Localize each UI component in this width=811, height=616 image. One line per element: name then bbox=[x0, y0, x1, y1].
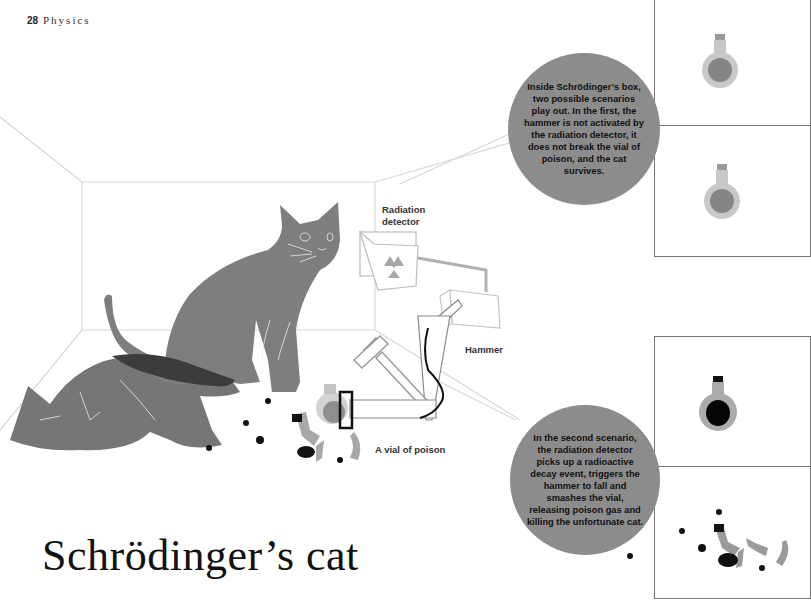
scenario-1-text: Inside Schrödinger’s box, two possible s… bbox=[524, 81, 644, 177]
connector-line-2 bbox=[440, 382, 516, 420]
radiation-detector-label: Radiation detector bbox=[382, 204, 425, 228]
vial-label: A vial of poison bbox=[375, 444, 445, 456]
scenario-1-bubble: Inside Schrödinger’s box, two possible s… bbox=[508, 53, 660, 205]
panel-scenario1-after bbox=[654, 125, 811, 257]
radiation-detector-label-line1: Radiation bbox=[382, 204, 425, 216]
detector-wire bbox=[418, 258, 486, 292]
panel-scenario1-before bbox=[654, 0, 811, 128]
scenario-2-bubble: In the second scenario, the radiation de… bbox=[510, 405, 660, 555]
scenario-2-text: In the second scenario, the radiation de… bbox=[526, 432, 644, 528]
page-title: Schrödinger’s cat bbox=[42, 530, 359, 581]
radiation-detector-label-line2: detector bbox=[382, 216, 425, 228]
hammer-label: Hammer bbox=[465, 344, 503, 356]
panel-scenario2-before bbox=[654, 336, 811, 468]
hammer-rail bbox=[350, 400, 436, 418]
connector-line-1 bbox=[400, 131, 516, 184]
panel-scenario2-after bbox=[654, 466, 811, 599]
